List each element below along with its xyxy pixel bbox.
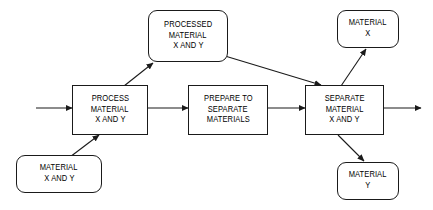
node-label-line: PREPARE TO xyxy=(204,94,253,105)
connector-separate-to-material-y xyxy=(338,135,364,161)
node-label-line: MATERIAL xyxy=(169,31,207,42)
node-label-line: MATERIAL xyxy=(349,170,387,181)
node-label-line: SEPARATE xyxy=(325,94,365,105)
connector-separate-to-material-x xyxy=(341,49,366,86)
node-material-y-output[interactable]: MATERIALY xyxy=(337,162,399,200)
node-processed-material-x-and-y[interactable]: PROCESSEDMATERIALX AND Y xyxy=(148,10,228,62)
connector-material-input-to-process xyxy=(70,135,99,157)
node-material-x-output[interactable]: MATERIALX xyxy=(337,10,399,48)
node-label-line: MATERIALS xyxy=(207,115,250,126)
node-label-line: X AND Y xyxy=(329,115,359,126)
node-prepare-to-separate-materials[interactable]: PREPARE TOSEPARATEMATERIALS xyxy=(188,85,268,135)
node-label-line: X xyxy=(365,29,370,40)
node-label-line: Y xyxy=(365,181,370,192)
node-label-line: MATERIAL xyxy=(40,163,78,174)
node-label-line: PROCESS xyxy=(91,94,128,105)
connector-process-to-processed xyxy=(124,63,153,86)
connector-processed-to-separate xyxy=(225,56,321,85)
node-label-line: MATERIAL xyxy=(91,105,129,116)
node-material-x-and-y-input[interactable]: MATERIALX AND Y xyxy=(16,155,102,193)
node-label-line: MATERIAL xyxy=(326,105,364,116)
node-separate-material-x-and-y[interactable]: SEPARATEMATERIALX AND Y xyxy=(305,85,384,135)
node-label-line: X AND Y xyxy=(95,115,125,126)
node-process-material-x-and-y[interactable]: PROCESSMATERIALX AND Y xyxy=(72,85,148,135)
node-label-line: X AND Y xyxy=(173,41,203,52)
process-flow-diagram: MATERIALX AND YPROCESSMATERIALX AND YPRO… xyxy=(0,0,433,210)
node-label-line: SEPARATE xyxy=(208,105,248,116)
node-label-line: PROCESSED xyxy=(164,20,212,31)
node-label-line: MATERIAL xyxy=(349,18,387,29)
node-label-line: X AND Y xyxy=(44,174,74,185)
